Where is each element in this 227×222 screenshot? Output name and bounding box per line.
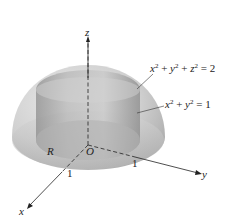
- diagram-canvas: [0, 0, 227, 222]
- z-axis-label: z: [85, 27, 89, 38]
- sphere-leader-line: [137, 74, 153, 89]
- y-axis-label: y: [202, 169, 207, 180]
- sphere-equation-label: x2 + y2 + z2 = 2: [150, 63, 215, 74]
- y-axis-tick-1: 1: [132, 158, 138, 169]
- x-axis-label: x: [19, 206, 24, 217]
- x-axis-arrow-icon: [27, 203, 33, 209]
- y-axis-arrow-icon: [195, 170, 202, 175]
- cylinder-equation-label: x2 + y2 = 1: [165, 99, 211, 110]
- region-label: R: [47, 146, 54, 157]
- x-axis-tick-1: 1: [67, 168, 73, 179]
- origin-label: O: [86, 146, 94, 157]
